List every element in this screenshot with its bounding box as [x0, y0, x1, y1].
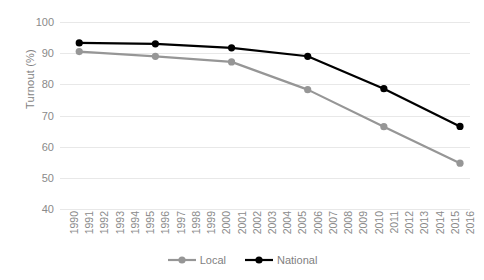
x-tick-label: 2006 [312, 211, 324, 234]
legend-label: National [277, 254, 317, 266]
x-tick-label: 2016 [464, 211, 476, 234]
x-tick-label: 1990 [68, 211, 80, 234]
x-tick-label: 2007 [327, 211, 339, 234]
x-tick-label: 1991 [83, 211, 95, 234]
x-tick-label: 2000 [220, 211, 232, 234]
x-tick-label: 2002 [251, 211, 263, 234]
x-tick-label: 2001 [236, 211, 248, 234]
x-tick-label: 2004 [281, 211, 293, 234]
x-tick-label: 2009 [357, 211, 369, 234]
x-tick-label: 2003 [266, 211, 278, 234]
x-tick-label: 1994 [129, 211, 141, 234]
legend-entry-local[interactable]: Local [167, 254, 226, 266]
x-tick-label: 2010 [373, 211, 385, 234]
x-tick-label: 2014 [434, 211, 446, 234]
legend-marker-icon [244, 254, 274, 266]
x-axis-tick-labels: 1990199119921993199419951996199719981999… [0, 0, 484, 280]
x-tick-label: 1996 [159, 211, 171, 234]
legend-label: Local [200, 254, 226, 266]
turnout-line-chart: Turnout (%) 100908070605040 199019911992… [0, 0, 484, 280]
x-tick-label: 2013 [418, 211, 430, 234]
x-tick-label: 1993 [114, 211, 126, 234]
chart-legend: LocalNational [0, 254, 484, 266]
x-tick-label: 1992 [98, 211, 110, 234]
x-tick-label: 1998 [190, 211, 202, 234]
x-tick-label: 2011 [388, 211, 400, 234]
x-tick-label: 2015 [449, 211, 461, 234]
x-tick-label: 1999 [205, 211, 217, 234]
x-tick-label: 2008 [342, 211, 354, 234]
x-tick-label: 2005 [296, 211, 308, 234]
legend-entry-national[interactable]: National [244, 254, 317, 266]
x-tick-label: 1995 [144, 211, 156, 234]
legend-marker-icon [167, 254, 197, 266]
x-tick-label: 2012 [403, 211, 415, 234]
x-tick-label: 1997 [175, 211, 187, 234]
